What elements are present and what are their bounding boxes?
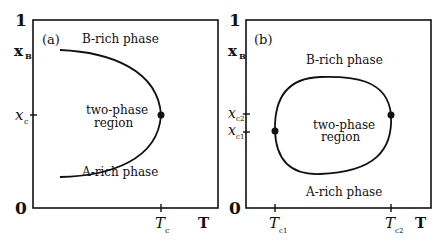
panel-b-y-axis-label: x B <box>228 42 246 61</box>
svg-text:x: x <box>228 122 236 138</box>
panel-a-upper-region: B-rich phase <box>82 32 159 46</box>
panel-b-lower-region: A-rich phase <box>305 185 382 199</box>
panel-a-y-axis-label: x B <box>14 42 32 61</box>
panel-a-middle-line2: region <box>94 116 134 130</box>
phase-diagrams: 1 0 x B (a) B-rich phase two-phase regio… <box>0 0 444 245</box>
panel-b: 1 0 x B (b) B-rich phase two-phase regio… <box>228 10 431 235</box>
panel-b-y-bottom-label: 0 <box>229 198 241 218</box>
svg-text:c2: c2 <box>395 227 403 235</box>
panel-a-tc-label: T c <box>155 214 170 235</box>
panel-a-tag: (a) <box>42 32 60 47</box>
panel-a-critical-point <box>158 112 165 119</box>
svg-text:x: x <box>228 105 236 121</box>
panel-b-y-top-label: 1 <box>229 10 241 30</box>
panel-b-tc2-label: T c2 <box>385 214 403 235</box>
panel-a-xc-label: x c <box>15 106 29 126</box>
panel-b-lower-critical-point <box>272 128 279 135</box>
panel-b-xc2-label: x c2 <box>228 105 244 123</box>
panel-a-y-top-label: 1 <box>15 10 27 30</box>
panel-b-upper-critical-point <box>388 112 395 119</box>
panel-a: 1 0 x B (a) B-rich phase two-phase regio… <box>14 10 218 235</box>
panel-b-tc1-label: T c1 <box>269 214 287 235</box>
svg-text:B: B <box>25 51 32 61</box>
panel-b-x-axis-label: T <box>415 214 427 232</box>
panel-a-lower-region: A-rich phase <box>81 165 158 179</box>
panel-a-x-axis-label: T <box>198 214 210 232</box>
svg-text:c: c <box>165 226 170 235</box>
svg-text:c1: c1 <box>236 133 244 141</box>
panel-b-middle-line2: region <box>321 130 361 144</box>
panel-a-middle-line1: two-phase <box>86 103 148 117</box>
svg-text:x: x <box>15 106 24 124</box>
svg-text:x: x <box>14 42 24 60</box>
svg-text:c2: c2 <box>236 115 244 123</box>
panel-b-frame <box>246 20 431 208</box>
svg-text:c: c <box>24 117 29 126</box>
svg-text:c1: c1 <box>279 227 287 235</box>
svg-text:B: B <box>239 51 246 61</box>
panel-b-tag: (b) <box>254 32 272 47</box>
panel-b-xc1-label: x c1 <box>228 122 244 141</box>
panel-a-y-bottom-label: 0 <box>15 198 27 218</box>
panel-b-upper-region: B-rich phase <box>306 53 383 67</box>
svg-text:x: x <box>228 42 238 60</box>
